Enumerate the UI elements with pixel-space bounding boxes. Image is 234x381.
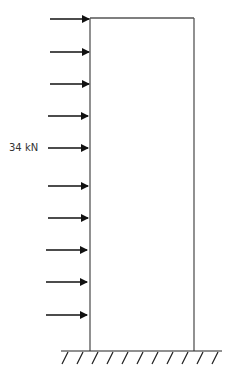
load-arrows	[46, 19, 89, 315]
load-label: 34 kN	[9, 142, 38, 153]
portal-frame	[90, 18, 194, 351]
frame-diagram	[0, 0, 234, 381]
fixed-support	[61, 351, 222, 364]
